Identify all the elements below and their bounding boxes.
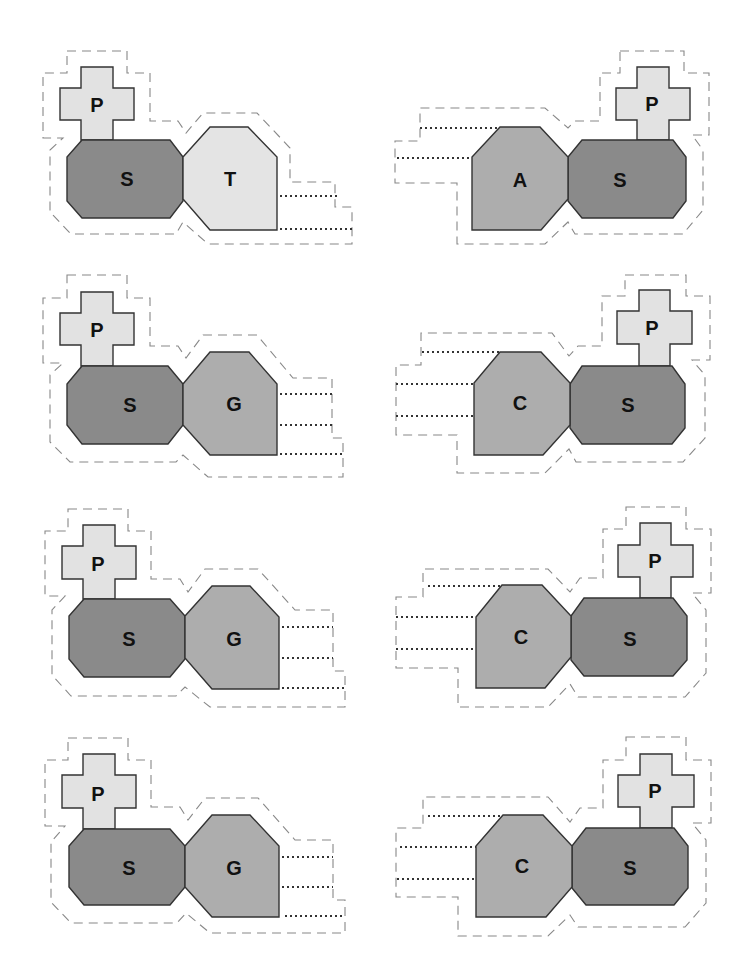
phosphate-label: P [648,550,661,572]
nucleotide-cutout-diagram: P S T P S A P S G P S C [0,0,748,980]
base-label: G [226,393,242,415]
sugar-shape [568,140,686,218]
nucleotide-unit-6: P S C [396,507,711,707]
nucleotide-unit-8: P S C [396,737,711,936]
phosphate-label: P [648,780,661,802]
sugar-label: S [120,168,133,190]
sugar-label: S [613,169,626,191]
base-label: T [224,168,236,190]
phosphate-label: P [645,317,658,339]
sugar-label: S [623,628,636,650]
sugar-label: S [122,857,135,879]
base-label: C [513,392,527,414]
nucleotide-unit-4: P S C [396,275,710,473]
phosphate-label: P [91,553,104,575]
base-label: A [513,169,527,191]
nucleotide-unit-3: P S G [43,275,343,477]
base-label: G [226,628,242,650]
sugar-label: S [623,857,636,879]
nucleotide-unit-2: P S A [395,51,709,244]
base-label: C [515,855,529,877]
sugar-label: S [122,628,135,650]
nucleotide-unit-7: P S G [45,738,345,933]
phosphate-label: P [645,93,658,115]
phosphate-label: P [90,94,103,116]
base-label: C [514,626,528,648]
sugar-label: S [621,394,634,416]
sugar-label: S [123,394,136,416]
phosphate-label: P [90,319,103,341]
base-label: G [226,857,242,879]
phosphate-label: P [91,783,104,805]
nucleotide-unit-5: P S G [45,509,345,707]
nucleotide-unit-1: P S T [43,51,352,244]
